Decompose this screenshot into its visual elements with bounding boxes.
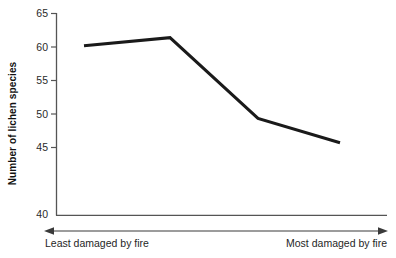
y-tick-label-45: 45 [22, 142, 48, 153]
chart-plot-svg [0, 0, 396, 258]
y-tick-label-60: 60 [22, 42, 48, 53]
y-axis [51, 13, 57, 216]
y-tick-label-55: 55 [22, 75, 48, 86]
x-axis-left-end-label: Least damaged by fire [45, 237, 149, 249]
y-tick-label-65: 65 [22, 8, 48, 19]
y-tick-label-50: 50 [22, 109, 48, 120]
chart-figure: Number of lichen species 65 60 55 50 45 … [0, 0, 396, 258]
data-line-lichen-species [84, 38, 340, 143]
fire-damage-gradient-arrow [44, 227, 388, 235]
y-axis-title: Number of lichen species [7, 34, 18, 214]
x-axis-right-end-label: Most damaged by fire [286, 237, 387, 249]
y-tick-label-40: 40 [22, 209, 48, 220]
